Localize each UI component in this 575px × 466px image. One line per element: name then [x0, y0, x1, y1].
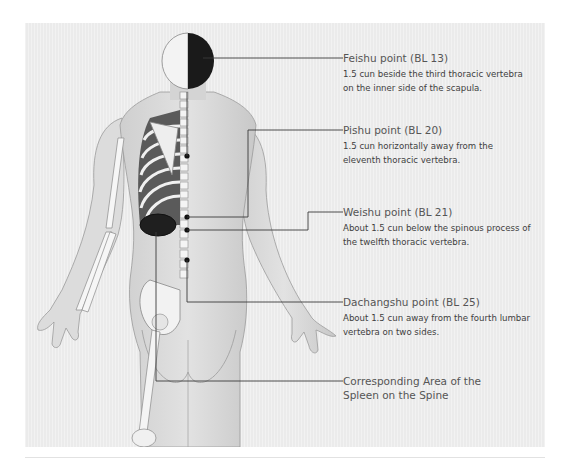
callout-title: Feishu point (BL 13) — [343, 51, 533, 65]
callout-weishu: Weishu point (BL 21) About 1.5 cun below… — [343, 205, 533, 249]
callout-title: Corresponding Area of the Spleen on the … — [343, 374, 503, 402]
callout-description: 1.5 cun beside the third thoracic verteb… — [343, 67, 533, 95]
callout-title: Weishu point (BL 21) — [343, 205, 533, 219]
callout-description: 1.5 cun horizontally away from the eleve… — [343, 139, 533, 167]
callout-pishu: Pishu point (BL 20) 1.5 cun horizontally… — [343, 123, 533, 167]
callout-description: About 1.5 cun below the spinous process … — [343, 221, 533, 249]
callout-feishu: Feishu point (BL 13) 1.5 cun beside the … — [343, 51, 533, 95]
spleen — [140, 214, 176, 236]
callout-title: Dachangshu point (BL 25) — [343, 295, 533, 309]
callout-spleen-area: Corresponding Area of the Spleen on the … — [343, 374, 503, 402]
callout-title: Pishu point (BL 20) — [343, 123, 533, 137]
callout-description: About 1.5 cun away from the fourth lumba… — [343, 311, 533, 339]
callout-dachangshu: Dachangshu point (BL 25) About 1.5 cun a… — [343, 295, 533, 339]
hair-half — [188, 33, 214, 89]
skull-half — [162, 33, 188, 89]
